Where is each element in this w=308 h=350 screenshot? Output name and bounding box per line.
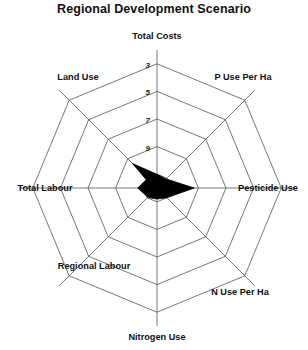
axis-label-total-costs: Total Costs [132,31,181,41]
axis-label-nitrogen-use: Nitrogen Use [128,332,185,342]
tick-label-7: 7 [146,116,151,125]
series-polygon-group [133,164,195,199]
axis-label-p-use-per-ha: P Use Per Ha [214,72,272,82]
radar-chart-svg: 9 7 5 3 Total Costs P Use Per Ha Pestici… [0,0,308,350]
tick-label-5: 5 [146,88,151,97]
axis-label-regional-labour: Regional Labour [58,261,131,271]
spoke-p-use-per-ha [157,90,255,188]
tick-label-9: 9 [146,144,151,153]
axis-label-n-use-per-ha: N Use Per Ha [211,287,270,297]
axis-label-total-labour: Total Labour [18,183,73,193]
tick-label-3: 3 [146,61,151,70]
axis-label-land-use: Land Use [57,72,98,82]
radar-chart-figure: Regional Development Scenario 9 7 5 [0,0,308,350]
series-polygon-regional-development [133,164,195,199]
axis-label-pesticide-use: Pesticide Use [238,183,298,193]
spoke-n-use-per-ha [157,188,255,286]
tick-labels: 9 7 5 3 [146,61,151,153]
